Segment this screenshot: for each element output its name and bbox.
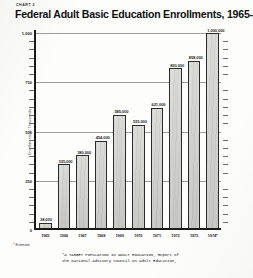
bar-value-label: 38,000 xyxy=(40,217,52,222)
bar-item: 858,000 xyxy=(188,33,201,230)
axis-minor-tick xyxy=(223,66,228,67)
bar-item: 380,000 xyxy=(76,33,89,230)
bar: 621,000 xyxy=(151,108,164,230)
bar-value-label: 454,000 xyxy=(96,135,110,140)
x-tick-label: 1973 xyxy=(188,233,201,238)
x-axis-line xyxy=(34,228,221,230)
axis-minor-tick xyxy=(223,222,228,223)
x-tick-label: 1969 xyxy=(113,233,126,238)
x-tick-label: 1970 xyxy=(132,233,145,238)
x-tick-label: 1968 xyxy=(95,233,108,238)
bar-item: 38,000 xyxy=(39,33,52,230)
x-tick-label: 1965 xyxy=(39,233,52,238)
plot-area: Enrollments in Thousands 38,000335,00038… xyxy=(36,33,221,230)
bar-value-label: 858,000 xyxy=(189,55,203,60)
axis-minor-tick xyxy=(223,74,228,75)
x-tick-label: 1974* xyxy=(206,233,219,238)
axis-minor-tick xyxy=(223,148,228,149)
axis-minor-tick xyxy=(223,164,228,165)
y-tick-label: 1,000 xyxy=(10,31,32,36)
bar-item: 454,000 xyxy=(95,33,108,230)
axis-minor-tick xyxy=(223,107,228,108)
axis-minor-tick xyxy=(223,173,228,174)
bar-value-label: 335,000 xyxy=(59,159,73,164)
axis-minor-tick xyxy=(223,205,228,206)
y-axis-line xyxy=(34,30,36,230)
axis-minor-tick xyxy=(223,115,228,116)
source-footnote: *A TARGET POPULATION IN ADULT EDUCATION,… xyxy=(62,252,250,265)
y-tick-label: 250 xyxy=(10,178,32,183)
bar-item: 1,000,000 xyxy=(206,33,219,230)
bar-item: 621,000 xyxy=(151,33,164,230)
bar-value-label: 535,000 xyxy=(133,119,147,124)
axis-minor-tick xyxy=(223,90,228,91)
x-tick-label: 1967 xyxy=(76,233,89,238)
y-tick-label: 0 xyxy=(10,228,32,233)
chart-tag: CHART 2 xyxy=(16,3,35,7)
bar-value-label: 820,000 xyxy=(170,63,184,68)
bar-value-label: 1,000,000 xyxy=(207,28,224,33)
bar-item: 820,000 xyxy=(169,33,182,230)
axis-minor-tick xyxy=(223,49,228,50)
axis-minor-tick xyxy=(223,189,228,190)
bar: 535,000 xyxy=(132,125,145,230)
bar: 1,000,000 xyxy=(206,33,219,230)
bar-value-label: 380,000 xyxy=(77,150,91,155)
bar-value-label: 621,000 xyxy=(152,102,166,107)
x-tick-label: 1972 xyxy=(169,233,182,238)
bar: 335,000 xyxy=(58,164,71,230)
axis-minor-tick xyxy=(223,123,228,124)
bar-item: 585,000 xyxy=(113,33,126,230)
bar: 380,000 xyxy=(76,155,89,230)
bar: 454,000 xyxy=(95,141,108,230)
axis-minor-tick xyxy=(223,156,228,157)
page-title: Federal Adult Basic Education Enrollment… xyxy=(15,8,249,20)
axis-minor-tick xyxy=(223,214,228,215)
bar-series: 38,000335,000380,000454,000585,000535,00… xyxy=(36,33,221,230)
axis-minor-tick xyxy=(223,140,228,141)
x-tick-label: 1966 xyxy=(58,233,71,238)
source-line-2: the National Advisory Council on Adult E… xyxy=(62,258,250,264)
x-tick-label: 1971 xyxy=(151,233,164,238)
y-tick-label: 750 xyxy=(10,80,32,85)
bar: 585,000 xyxy=(113,115,126,230)
estimate-note: * Estimate xyxy=(13,243,30,247)
axis-minor-tick xyxy=(223,197,228,198)
bar-value-label: 585,000 xyxy=(114,109,128,114)
y-tick-label: 500 xyxy=(10,129,32,134)
bar-item: 335,000 xyxy=(58,33,71,230)
bar: 820,000 xyxy=(169,68,182,230)
chart-page: CHART 2 Federal Adult Basic Education En… xyxy=(0,0,253,278)
x-axis-labels: 1965196619671968196919701971197219731974… xyxy=(36,233,221,238)
axis-minor-tick xyxy=(223,99,228,100)
axis-minor-tick xyxy=(223,41,228,42)
axis-minor-tick xyxy=(223,58,228,59)
bar: 858,000 xyxy=(188,61,201,230)
bar-item: 535,000 xyxy=(132,33,145,230)
